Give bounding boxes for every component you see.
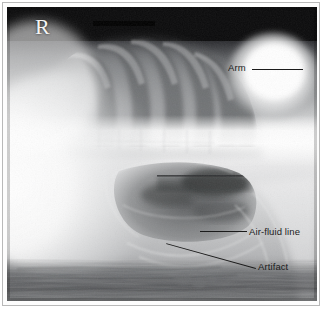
arm-label: Arm <box>228 62 246 73</box>
radiograph-image <box>7 7 317 301</box>
artifact-label: Artifact <box>258 261 288 272</box>
radiograph-plate: R <box>7 7 317 301</box>
air-fluid-line-label: Air-fluid line <box>249 226 300 237</box>
radiograph-figure: R Arm Air-fluid line Artifact <box>0 0 324 310</box>
laterality-marker-r: R <box>35 16 50 38</box>
film-grain <box>7 7 317 301</box>
air-fluid-line-leader-line <box>200 231 247 232</box>
arm-leader-line <box>252 69 303 70</box>
